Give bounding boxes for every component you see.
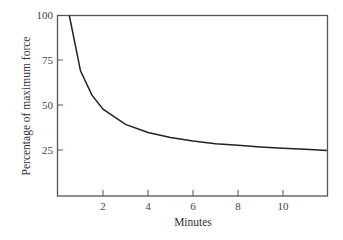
chart: 100 75 50 25 Percentage of maximum force… [0, 0, 343, 240]
x-tick-label: 6 [190, 200, 196, 212]
plot-frame [58, 16, 328, 197]
y-tick-label: 100 [37, 9, 54, 21]
x-tick-label: 10 [278, 200, 290, 212]
x-tick-label: 2 [100, 200, 106, 212]
force-curve [69, 16, 327, 151]
x-axis-label: Minutes [174, 216, 212, 228]
x-tick-label: 4 [145, 200, 151, 212]
y-tick-label: 50 [42, 99, 54, 111]
y-tick-label: 75 [42, 54, 54, 66]
y-axis-label: Percentage of maximum force [20, 37, 33, 176]
y-tick-label: 25 [42, 144, 54, 156]
y-axis: 100 75 50 25 Percentage of maximum force [20, 9, 63, 175]
x-tick-label: 8 [235, 200, 241, 212]
